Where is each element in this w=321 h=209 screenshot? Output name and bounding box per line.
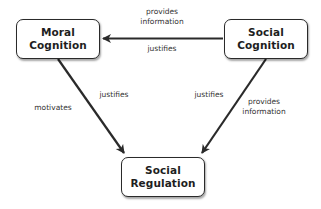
label-line2: information <box>238 107 290 117</box>
node-title-line2: Regulation <box>130 177 195 190</box>
label-line1: provides <box>138 7 186 17</box>
label-text: motivates <box>28 103 78 113</box>
label-text: justifies <box>94 90 134 100</box>
edge-label-provides-information-top: provides information <box>138 7 186 26</box>
edge-label-motivates: motivates <box>28 103 78 113</box>
node-moral-cognition: Moral Cognition <box>16 19 100 59</box>
label-line2: information <box>138 17 186 27</box>
node-title-line1: Social <box>248 26 284 39</box>
node-social-regulation: Social Regulation <box>121 157 205 197</box>
edge-label-provides-information-right: provides information <box>238 97 290 116</box>
label-text: justifies <box>142 44 182 54</box>
node-title-line1: Moral <box>41 26 75 39</box>
edge-label-justifies-left: justifies <box>94 90 134 100</box>
edge-label-justifies-top: justifies <box>142 44 182 54</box>
node-title-line2: Cognition <box>29 39 87 52</box>
node-social-cognition: Social Cognition <box>224 19 308 59</box>
node-title-line1: Social <box>145 164 181 177</box>
edge-label-justifies-right: justifies <box>189 90 229 100</box>
diagram-canvas: Moral Cognition Social Cognition Social … <box>0 0 321 209</box>
label-line1: provides <box>238 97 290 107</box>
node-title-line2: Cognition <box>237 39 295 52</box>
label-text: justifies <box>189 90 229 100</box>
